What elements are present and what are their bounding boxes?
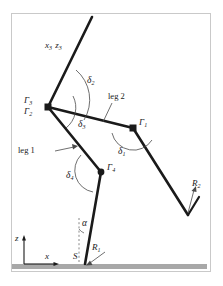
label-leg1: leg 1	[18, 146, 35, 155]
label-axis-z: z	[15, 234, 19, 243]
label-body-frame-axes: x3 z3	[45, 41, 62, 51]
label-reaction-r2: R2	[192, 179, 201, 189]
label-delta4: δ4	[66, 171, 73, 181]
joint-gamma4-marker	[98, 169, 105, 176]
link-upper-body	[48, 17, 92, 107]
leader-arrowhead-leg1	[72, 144, 78, 150]
leader-line-leg1	[55, 147, 74, 151]
ground-bar	[12, 264, 207, 269]
label-delta2: δ2	[87, 76, 94, 86]
label-gamma4: Γ4	[107, 163, 115, 173]
link-leg2-thigh	[48, 107, 133, 128]
kinematic-diagram-svg	[0, 0, 223, 286]
leader-arrowhead-r1	[86, 261, 93, 266]
label-gamma2: Γ2	[24, 107, 32, 117]
leader-line-leg2	[103, 103, 112, 122]
label-reaction-r1: R1	[92, 243, 101, 253]
label-delta3: δ3	[78, 120, 85, 130]
label-delta1: δ1	[118, 147, 125, 157]
figure-frame	[12, 14, 211, 272]
label-gamma1: Γ1	[139, 118, 147, 128]
label-axis-x: x	[45, 252, 49, 261]
leader-line-r1	[90, 252, 105, 263]
label-gamma3: Γ3	[24, 96, 32, 106]
link-leg2-shank	[133, 128, 188, 215]
label-leg2: leg 2	[108, 92, 125, 101]
label-alpha: α	[82, 219, 87, 229]
joint-gamma23-marker	[45, 104, 52, 111]
joint-gamma1-marker	[130, 125, 137, 132]
figure-canvas: x3 z3 Γ3 Γ2 Γ1 Γ4 δ2 δ3 δ1 δ4 α leg 1 le…	[0, 0, 223, 286]
angle-arc-alpha	[79, 229, 84, 233]
label-contact-point-s: S	[73, 252, 78, 261]
axis-z-arrowhead	[22, 235, 26, 241]
